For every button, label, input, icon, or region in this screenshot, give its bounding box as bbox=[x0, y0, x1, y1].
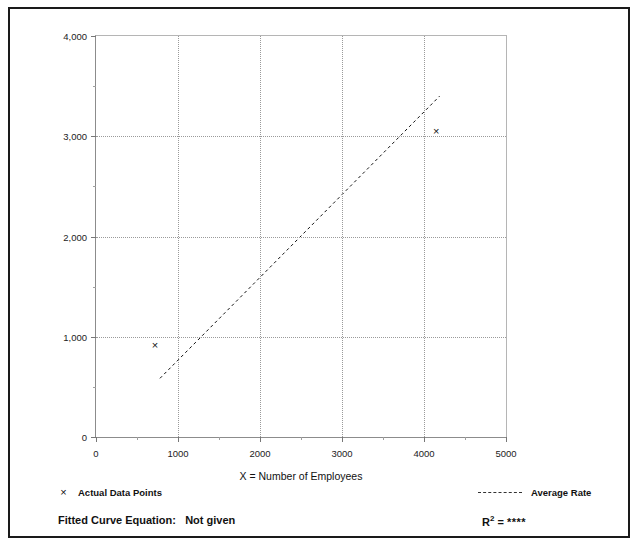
dashed-line-icon bbox=[478, 492, 522, 493]
x-axis-tick-label: 0 bbox=[93, 448, 98, 459]
y-axis-tick-major bbox=[91, 136, 96, 137]
x-axis-tick-minor bbox=[219, 437, 220, 440]
x-axis-tick-major bbox=[178, 437, 179, 442]
chart-legend: × Actual Data Points Average Rate bbox=[10, 487, 632, 509]
x-axis-tick-minor bbox=[383, 437, 384, 440]
data-point-marker: × bbox=[431, 125, 442, 136]
y-axis-tick-label: 2,000 bbox=[63, 231, 87, 242]
legend-item-average-rate: Average Rate bbox=[478, 487, 591, 498]
x-axis-tick-major bbox=[506, 437, 507, 442]
fitted-curve-equation: Fitted Curve Equation: Not given bbox=[58, 514, 235, 526]
fitted-curve-equation-value: Not given bbox=[185, 514, 235, 526]
x-axis-tick-minor bbox=[301, 437, 302, 440]
y-axis-tick-label: 4,000 bbox=[63, 31, 87, 42]
legend-label-actual-data-points: Actual Data Points bbox=[78, 487, 162, 498]
figure-page: T = Average Vehicle Trip Ends 0100020003… bbox=[0, 0, 638, 545]
y-axis-tick-major bbox=[91, 237, 96, 238]
cut-off-header-text bbox=[0, 0, 638, 6]
y-axis-tick-minor bbox=[93, 186, 96, 187]
plot-wrapper: T = Average Vehicle Trip Ends 0100020003… bbox=[10, 9, 632, 540]
gridline-horizontal bbox=[96, 237, 506, 238]
x-axis-tick-minor bbox=[137, 437, 138, 440]
x-axis-tick-label: 4000 bbox=[413, 448, 434, 459]
y-axis-tick-label: 3,000 bbox=[63, 131, 87, 142]
gridline-horizontal bbox=[96, 136, 506, 137]
y-axis-tick-major bbox=[91, 437, 96, 438]
r-squared-label: R bbox=[482, 516, 490, 528]
r-squared-exponent: 2 bbox=[490, 514, 494, 523]
y-axis-tick-minor bbox=[93, 86, 96, 87]
x-axis-tick-label: 3000 bbox=[331, 448, 352, 459]
x-axis-tick-label: 1000 bbox=[167, 448, 188, 459]
x-axis-tick-major bbox=[424, 437, 425, 442]
r-squared-equals: = bbox=[497, 516, 503, 528]
x-axis-title: X = Number of Employees bbox=[95, 470, 507, 482]
x-axis-tick-label: 2000 bbox=[249, 448, 270, 459]
x-axis-tick-major bbox=[260, 437, 261, 442]
y-axis-tick-label: 0 bbox=[82, 432, 87, 443]
figure-frame: T = Average Vehicle Trip Ends 0100020003… bbox=[8, 7, 630, 538]
y-axis-tick-major bbox=[91, 36, 96, 37]
x-axis-tick-label: 5000 bbox=[495, 448, 516, 459]
data-point-marker: × bbox=[150, 339, 161, 350]
plot-area: 01000200030004000500001,0002,0003,0004,0… bbox=[95, 35, 507, 438]
y-axis-tick-minor bbox=[93, 287, 96, 288]
y-axis-tick-minor bbox=[93, 387, 96, 388]
legend-item-actual-data-points: × Actual Data Points bbox=[58, 487, 162, 498]
chart-footer: Fitted Curve Equation: Not given R2 = **… bbox=[10, 514, 632, 538]
x-marker-icon: × bbox=[58, 487, 69, 498]
r-squared-value: **** bbox=[507, 516, 526, 528]
fitted-curve-equation-label: Fitted Curve Equation: bbox=[58, 514, 176, 526]
x-axis-tick-major bbox=[342, 437, 343, 442]
x-axis-tick-major bbox=[96, 437, 97, 442]
legend-label-average-rate: Average Rate bbox=[531, 487, 591, 498]
y-axis-tick-label: 1,000 bbox=[63, 331, 87, 342]
r-squared-statistic: R2 = **** bbox=[482, 514, 526, 528]
average-rate-trendline bbox=[96, 36, 508, 439]
y-axis-tick-major bbox=[91, 337, 96, 338]
x-axis-tick-minor bbox=[465, 437, 466, 440]
